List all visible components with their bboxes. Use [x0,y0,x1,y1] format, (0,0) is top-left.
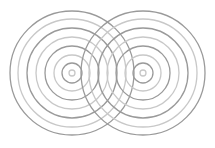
concentric-circles-figure [0,0,215,148]
interference-pattern-graphic [0,0,215,148]
